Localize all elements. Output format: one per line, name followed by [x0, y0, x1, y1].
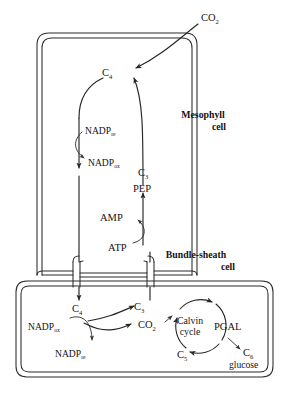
- c4-photosynthesis-diagram: CO2 C4 NADPre NADPox C3 PEP AMP ATP Meso…: [0, 0, 291, 396]
- calvin-arc-bottom: [190, 344, 219, 353]
- label-nadp-ox-bundle: NADPox: [28, 321, 60, 333]
- mesophyll-arrows: [75, 24, 198, 262]
- label-pep: PEP: [133, 183, 151, 194]
- label-amp: AMP: [100, 212, 123, 223]
- label-nadp-ox-mesophyll: NADPox: [88, 157, 120, 169]
- label-calvin-line2: cycle: [180, 326, 201, 337]
- label-c5: C5: [177, 349, 188, 362]
- label-nadp-re-mesophyll: NADPre: [85, 125, 116, 137]
- label-mesophyll-cell-line2: cell: [212, 121, 226, 132]
- label-glucose: glucose: [229, 359, 258, 370]
- arrow-co2-to-c4: [136, 24, 198, 68]
- label-nadp-re-bundle: NADPre: [55, 348, 86, 360]
- label-pgal: PGAL: [214, 321, 241, 332]
- bundle-sheath-arrows: [70, 287, 172, 340]
- arrow-c4-down: [79, 78, 103, 118]
- label-c3-mesophyll: C3: [138, 167, 149, 180]
- arrow-c4-to-c3: [88, 306, 134, 321]
- label-co2-internal: CO2: [138, 319, 156, 332]
- mesophyll-cell-wall: [37, 33, 197, 275]
- diagram-canvas: CO2 C4 NADPre NADPox C3 PEP AMP ATP Meso…: [0, 0, 291, 396]
- label-calvin-line1: Calvin: [177, 315, 203, 326]
- label-c4-bundle: C4: [72, 303, 83, 316]
- arrow-c4-to-co2: [84, 323, 131, 330]
- label-atp: ATP: [108, 242, 127, 253]
- label-bundle-sheath-line1: Bundle-sheath: [166, 249, 227, 260]
- calvin-arc-top: [180, 300, 212, 309]
- arrow-co2-to-calvin: [165, 316, 172, 322]
- arrow-nadpre-to-nadpox: [75, 132, 84, 158]
- label-mesophyll-cell-line1: Mesophyll: [181, 109, 225, 120]
- label-co2-external: CO2: [201, 12, 219, 25]
- label-c4-mesophyll: C4: [102, 67, 113, 80]
- label-bundle-sheath-line2: cell: [221, 261, 235, 272]
- label-c3-bundle: C3: [134, 301, 145, 314]
- arrow-nadpox-to-nadpre: [70, 317, 92, 340]
- cell-channels: [37, 256, 197, 287]
- label-c6: C6: [243, 347, 254, 360]
- arrow-pgal-to-c6: [228, 338, 240, 349]
